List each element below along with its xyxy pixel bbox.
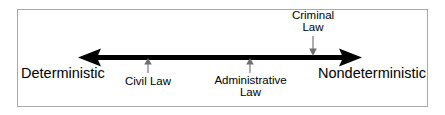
marker-label-criminal-law-line2: Law bbox=[281, 21, 345, 33]
marker-label-criminal-law: Criminal Law bbox=[281, 9, 345, 33]
marker-label-administrative-law-line2: Law bbox=[208, 86, 293, 98]
axis-label-deterministic: Deterministic bbox=[21, 66, 105, 81]
criminal-law-arrowhead-icon bbox=[309, 49, 317, 57]
marker-label-administrative-law: Administrative Law bbox=[208, 74, 293, 98]
marker-label-administrative-law-line1: Administrative bbox=[214, 74, 286, 86]
axis-label-nondeterministic: Nondeterministic bbox=[318, 66, 426, 81]
figure-root: Deterministic Nondeterministic Civil Law… bbox=[0, 0, 445, 115]
marker-label-civil-law: Civil Law bbox=[113, 75, 183, 87]
marker-label-criminal-law-line1: Criminal bbox=[292, 9, 334, 21]
marker-label-civil-law-line1: Civil Law bbox=[125, 75, 171, 87]
